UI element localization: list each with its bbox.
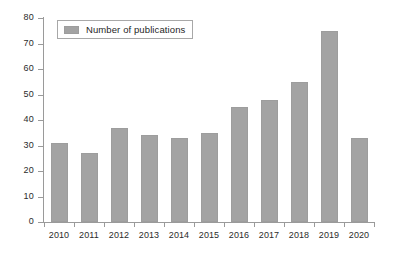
y-axis-tick (38, 44, 43, 45)
x-axis-tick (224, 223, 225, 227)
bar-2020 (351, 138, 368, 222)
y-axis-tick (38, 146, 43, 147)
x-axis-tick (374, 223, 375, 227)
bar-2017 (261, 100, 278, 222)
x-axis-label-2014: 2014 (164, 231, 194, 240)
x-axis-tick (254, 223, 255, 227)
bar-2010 (51, 143, 68, 222)
x-axis-tick (44, 223, 45, 227)
bar-2016 (231, 107, 248, 222)
y-axis-tick-label: 60 (0, 64, 34, 73)
bar-2019 (321, 31, 338, 222)
legend-swatch-icon (64, 26, 79, 34)
x-axis-tick (104, 223, 105, 227)
y-axis-tick-label: 70 (0, 39, 34, 48)
y-axis-tick-label: 50 (0, 90, 34, 99)
x-axis-label-2017: 2017 (254, 231, 284, 240)
x-axis-tick (284, 223, 285, 227)
x-axis-label-2015: 2015 (194, 231, 224, 240)
y-axis-tick-label: 10 (0, 192, 34, 201)
plot-area (44, 18, 374, 222)
legend-label: Number of publications (86, 25, 185, 35)
bar-2014 (171, 138, 188, 222)
y-axis-tick (38, 18, 43, 19)
y-axis-tick (38, 171, 43, 172)
bar-chart: 01020304050607080 2010201120122013201420… (0, 0, 394, 254)
x-axis-label-2019: 2019 (314, 231, 344, 240)
y-axis-tick (38, 222, 43, 223)
bar-2013 (141, 135, 158, 222)
x-axis-tick (314, 223, 315, 227)
bar-2018 (291, 82, 308, 222)
x-axis-tick (194, 223, 195, 227)
x-axis-label-2016: 2016 (224, 231, 254, 240)
x-axis-line (43, 222, 375, 223)
chart-legend: Number of publications (57, 20, 193, 39)
y-axis-tick-label: 80 (0, 13, 34, 22)
x-axis-label-2020: 2020 (344, 231, 374, 240)
y-axis-tick-label: 20 (0, 166, 34, 175)
x-axis-tick (164, 223, 165, 227)
x-axis-label-2012: 2012 (104, 231, 134, 240)
bar-2011 (81, 153, 98, 222)
x-axis-tick (344, 223, 345, 227)
y-axis-tick (38, 95, 43, 96)
bar-2015 (201, 133, 218, 222)
y-axis-tick (38, 197, 43, 198)
x-axis-tick (74, 223, 75, 227)
x-axis-label-2013: 2013 (134, 231, 164, 240)
y-axis-tick (38, 120, 43, 121)
x-axis-label-2018: 2018 (284, 231, 314, 240)
y-axis-tick-label: 30 (0, 141, 34, 150)
bar-2012 (111, 128, 128, 222)
y-axis-tick-label: 40 (0, 115, 34, 124)
x-axis-label-2010: 2010 (44, 231, 74, 240)
y-axis-tick-label: 0 (0, 217, 34, 226)
y-axis-tick (38, 69, 43, 70)
x-axis-label-2011: 2011 (74, 231, 104, 240)
x-axis-tick (134, 223, 135, 227)
